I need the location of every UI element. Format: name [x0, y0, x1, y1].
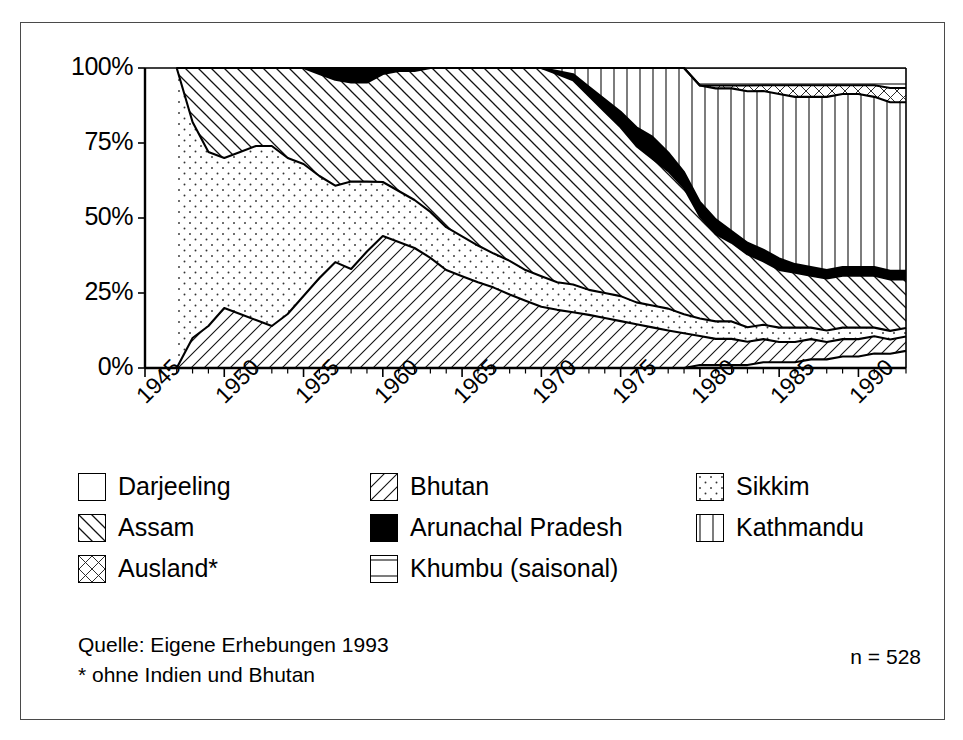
legend-label: Ausland* [118, 554, 218, 583]
legend-label: Darjeeling [118, 472, 231, 501]
legend-item-sikkim: Sikkim [696, 472, 936, 501]
legend-item-khumbu-saisonal: Khumbu (saisonal) [370, 554, 696, 583]
legend-row: DarjeelingBhutanSikkim [78, 466, 938, 507]
footer-block: Quelle: Eigene Erhebungen 1993 * ohne In… [78, 630, 938, 690]
legend-label: Khumbu (saisonal) [410, 554, 618, 583]
y-tick-label: 0% [43, 352, 133, 381]
legend-row: Ausland*Khumbu (saisonal) [78, 548, 938, 589]
legend-swatch-cross-hatch [78, 555, 106, 583]
legend-item-kathmandu: Kathmandu [696, 513, 936, 542]
legend-swatch-horizontal [370, 555, 398, 583]
legend-swatch-vertical [696, 514, 724, 542]
legend-item-darjeeling: Darjeeling [78, 472, 370, 501]
sample-size-label: n = 528 [850, 645, 921, 669]
legend-label: Bhutan [410, 472, 489, 501]
legend-item-assam: Assam [78, 513, 370, 542]
legend-swatch-diagonal-back [78, 514, 106, 542]
y-tick-label: 100% [43, 52, 133, 81]
legend-swatch-dots [696, 473, 724, 501]
y-tick-label: 75% [43, 127, 133, 156]
y-tick-label: 50% [43, 202, 133, 231]
legend-swatch-solid-black [370, 514, 398, 542]
legend-item-ausland: Ausland* [78, 554, 370, 583]
chart-legend: DarjeelingBhutanSikkimAssamArunachal Pra… [78, 466, 938, 589]
legend-item-bhutan: Bhutan [370, 472, 696, 501]
legend-label: Arunachal Pradesh [410, 513, 623, 542]
legend-label: Assam [118, 513, 194, 542]
note-text: * ohne Indien und Bhutan [78, 660, 938, 690]
legend-label: Sikkim [736, 472, 810, 501]
legend-item-arunachal-pradesh: Arunachal Pradesh [370, 513, 696, 542]
legend-swatch-blank [78, 473, 106, 501]
y-tick-label: 25% [43, 277, 133, 306]
legend-swatch-diagonal-forward [370, 473, 398, 501]
legend-row: AssamArunachal PradeshKathmandu [78, 507, 938, 548]
source-text: Quelle: Eigene Erhebungen 1993 [78, 630, 938, 660]
legend-label: Kathmandu [736, 513, 864, 542]
